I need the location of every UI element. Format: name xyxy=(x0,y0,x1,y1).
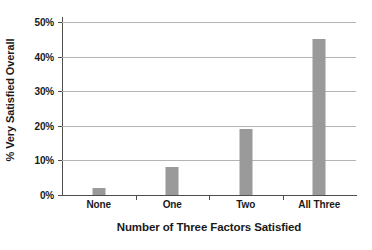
bar-series xyxy=(62,20,356,196)
bar xyxy=(92,188,105,195)
x-axis-tick-label: None xyxy=(86,199,111,210)
y-axis-title-label: % Very Satisfied Overall xyxy=(4,39,16,162)
y-axis-tick-label: 10% xyxy=(35,155,54,166)
x-axis-tick-label: One xyxy=(163,199,182,210)
plot-area xyxy=(62,20,356,196)
y-axis-tick-label: 30% xyxy=(35,86,54,97)
x-axis-title: Number of Three Factors Satisfied xyxy=(62,221,356,233)
y-axis-title: % Very Satisfied Overall xyxy=(0,0,20,200)
x-axis-tick-label: All Three xyxy=(298,199,340,210)
y-axis-tick-label: 40% xyxy=(35,51,54,62)
bar xyxy=(239,129,252,195)
y-axis-tick-label: 20% xyxy=(35,120,54,131)
bar xyxy=(166,167,179,195)
bar xyxy=(313,39,326,195)
y-axis-tick-labels: 0%10%20%30%40%50% xyxy=(20,14,58,196)
x-axis-tick-labels: NoneOneTwoAll Three xyxy=(62,199,356,215)
x-axis-tick-label: Two xyxy=(236,199,255,210)
y-axis-tick-label: 50% xyxy=(35,17,54,28)
y-axis-tick-label: 0% xyxy=(40,190,54,201)
bar-chart-figure: % Very Satisfied Overall 0%10%20%30%40%5… xyxy=(0,0,372,250)
